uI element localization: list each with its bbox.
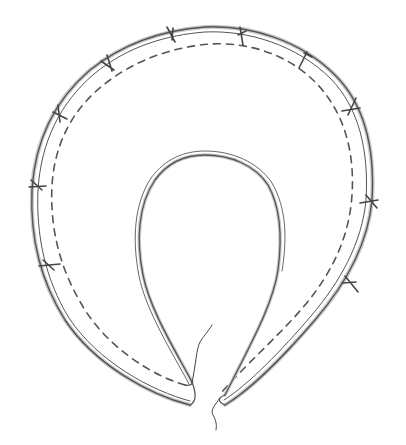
outer-edge xyxy=(32,27,373,405)
thread-end-bottom xyxy=(212,398,220,430)
thread-end-top xyxy=(192,325,212,382)
bottom-tips xyxy=(185,382,225,405)
stitch-line xyxy=(52,44,353,392)
pin-icon xyxy=(101,55,114,71)
pin-icon xyxy=(360,195,378,208)
sewing-diagram xyxy=(0,0,406,445)
thread-ends xyxy=(192,325,220,430)
inner-edge xyxy=(135,151,285,395)
